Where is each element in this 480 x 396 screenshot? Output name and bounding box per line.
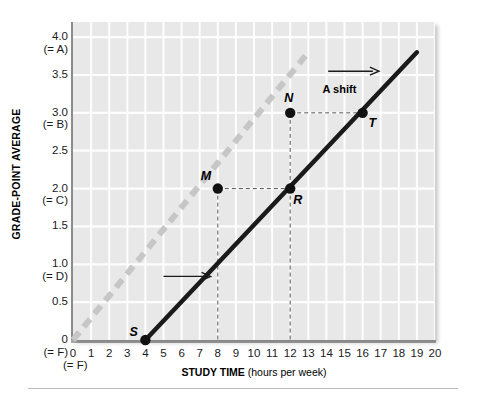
data-point-T[interactable] xyxy=(357,108,367,118)
x-tick-value: 11 xyxy=(266,347,278,359)
x-tick-value: 13 xyxy=(302,347,315,359)
y-tick-value: 0 xyxy=(62,333,68,345)
x-tick-7: 7 xyxy=(190,347,210,359)
x-tick-value: 14 xyxy=(320,347,333,359)
y-tick-1-0: 1.0(= D) xyxy=(42,257,68,282)
y-tick-grade: (= B) xyxy=(43,118,68,131)
point-label-T: T xyxy=(369,116,377,130)
chart-data-layer xyxy=(73,22,435,340)
y-tick-value: 4.0 xyxy=(52,30,68,42)
x-tick-value: 9 xyxy=(233,347,239,359)
x-tick-1: 1 xyxy=(81,347,101,359)
x-tick-value: 6 xyxy=(178,347,184,359)
y-tick-2-0: 2.0(= C) xyxy=(42,182,68,207)
y-tick-grade: (= A) xyxy=(43,43,68,56)
x-tick-6: 6 xyxy=(172,347,192,359)
x-tick-value: 17 xyxy=(374,347,387,359)
point-label-R: R xyxy=(293,193,302,207)
point-label-N: N xyxy=(284,91,293,105)
x-tick-16: 16 xyxy=(353,347,373,359)
point-label-S: S xyxy=(129,325,137,339)
x-tick-17: 17 xyxy=(371,347,391,359)
plot-area xyxy=(73,22,435,340)
x-axis-title-bold: STUDY TIME xyxy=(181,366,244,378)
y-tick-3-5: 3.5 xyxy=(52,68,68,81)
y-tick-0-5: 0.5 xyxy=(52,295,68,308)
x-tick-value: 10 xyxy=(248,347,261,359)
y-tick-value: 0.5 xyxy=(52,295,68,307)
x-tick-19: 19 xyxy=(407,347,427,359)
x-tick-value: 8 xyxy=(215,347,221,359)
x-tick-value: 2 xyxy=(106,347,112,359)
chart-figure: 4.0(= A)3.53.0(= B)2.52.0(= C)1.51.0(= D… xyxy=(0,0,480,396)
point-label-M: M xyxy=(201,169,211,183)
x-tick-value: 19 xyxy=(410,347,423,359)
y-axis-title: GRADE-POINT AVERAGE xyxy=(10,84,22,264)
x-tick-value: 1 xyxy=(88,347,94,359)
data-point-N[interactable] xyxy=(285,108,295,118)
a-shift-annotation-label: A shift xyxy=(323,83,357,95)
y-tick-value: 3.5 xyxy=(52,68,68,80)
y-tick-3-0: 3.0(= B) xyxy=(43,106,68,131)
x-tick-11: 11 xyxy=(262,347,282,359)
x-tick-3: 3 xyxy=(117,347,137,359)
y-tick-value: 3.0 xyxy=(52,106,68,118)
x-tick-value: 20 xyxy=(429,347,442,359)
x-tick-10: 10 xyxy=(244,347,264,359)
x-axis-spine xyxy=(71,340,436,343)
x-tick-value: 3 xyxy=(124,347,130,359)
data-point-M[interactable] xyxy=(213,183,223,193)
x-tick-9: 9 xyxy=(226,347,246,359)
x-tick-12: 12 xyxy=(280,347,300,359)
y-tick-4-0: 4.0(= A) xyxy=(43,30,68,55)
x-tick-value: 7 xyxy=(196,347,202,359)
x-tick-value: 5 xyxy=(160,347,166,359)
x-tick-value: 0 xyxy=(70,347,76,359)
x-tick-value: 12 xyxy=(284,347,297,359)
y-tick-1-5: 1.5 xyxy=(52,219,68,232)
x-axis-title-rest: (hours per week) xyxy=(245,366,327,378)
x-tick-5: 5 xyxy=(154,347,174,359)
x-axis-title: STUDY TIME (hours per week) xyxy=(73,366,435,378)
data-point-S[interactable] xyxy=(140,335,150,345)
x-tick-8: 8 xyxy=(208,347,228,359)
x-tick-14: 14 xyxy=(316,347,336,359)
y-tick-value: 2.0 xyxy=(52,182,68,194)
x-tick-18: 18 xyxy=(389,347,409,359)
x-tick-value: 4 xyxy=(142,347,148,359)
series-original-line xyxy=(73,52,308,340)
x-tick-15: 15 xyxy=(335,347,355,359)
y-tick-value: 1.0 xyxy=(52,257,68,269)
x-tick-2: 2 xyxy=(99,347,119,359)
y-tick-grade: (= C) xyxy=(42,194,68,207)
footer-divider xyxy=(28,388,458,389)
x-tick-value: 15 xyxy=(338,347,351,359)
x-tick-value: 16 xyxy=(356,347,369,359)
x-tick-13: 13 xyxy=(298,347,318,359)
x-tick-4: 4 xyxy=(135,347,155,359)
x-tick-20: 20 xyxy=(425,347,445,359)
y-tick-2-5: 2.5 xyxy=(52,144,68,157)
y-tick-value: 2.5 xyxy=(52,144,68,156)
series-shifted-line xyxy=(145,52,417,340)
x-tick-value: 18 xyxy=(392,347,405,359)
y-tick-value: 1.5 xyxy=(52,219,68,231)
y-tick-grade: (= D) xyxy=(42,270,68,283)
